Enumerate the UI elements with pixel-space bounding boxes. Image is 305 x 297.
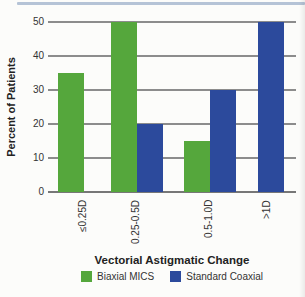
bar-standard-coaxial-2	[210, 90, 236, 192]
y-tick-label-0: 0	[17, 186, 44, 198]
plot-area	[48, 22, 296, 192]
y-tick-label-20: 20	[17, 118, 44, 130]
legend-entry-0: Biaxial MICS	[81, 271, 154, 282]
legend-label: Biaxial MICS	[97, 271, 154, 282]
x-tick-label-1: 0.25-0.5D	[130, 200, 144, 256]
bar-standard-coaxial-3	[258, 22, 284, 192]
y-tick-label-50: 50	[17, 16, 44, 28]
y-tick-label-10: 10	[17, 152, 44, 164]
figure-top-rule	[17, 2, 305, 5]
legend-swatch-icon	[81, 271, 92, 282]
bar-biaxial-mics-0	[58, 73, 84, 192]
y-tick-label-30: 30	[17, 84, 44, 96]
figure: Percent of Patients 01020304050 ≤0.25D0.…	[0, 0, 305, 297]
legend-entry-1: Standard Coaxial	[170, 271, 263, 282]
x-tick-label-0: ≤0.25D	[77, 200, 91, 256]
bar-biaxial-mics-1	[111, 22, 137, 192]
scan-edge-shadow	[299, 0, 305, 297]
x-tick-label-2: 0.5-1.0D	[203, 200, 217, 256]
y-tick-label-40: 40	[17, 50, 44, 62]
legend-swatch-icon	[170, 271, 181, 282]
bar-standard-coaxial-1	[137, 124, 163, 192]
bar-biaxial-mics-2	[184, 141, 210, 192]
x-tick-label-3: >1D	[261, 200, 275, 256]
legend-label: Standard Coaxial	[186, 271, 263, 282]
legend: Biaxial MICSStandard Coaxial	[48, 271, 296, 282]
x-axis-title: Vectorial Astigmatic Change	[48, 254, 296, 266]
